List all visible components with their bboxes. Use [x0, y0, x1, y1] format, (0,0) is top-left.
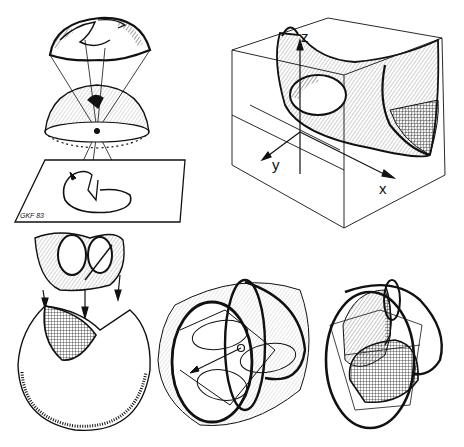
y-axis-label: y	[272, 156, 280, 173]
figure-projection-stack: GKF 83	[15, 18, 185, 222]
y-axis	[265, 132, 300, 158]
figure-surface-in-box: z y x	[232, 18, 445, 228]
folded-surface	[35, 233, 124, 290]
top-dome-surface	[50, 18, 150, 61]
illustration-plate: GKF 83 z	[0, 0, 464, 447]
x-axis-label: x	[379, 180, 387, 197]
z-axis-label: z	[301, 28, 309, 45]
center-point	[94, 128, 99, 133]
x-arrow-icon	[382, 170, 394, 178]
figure-cut-disk	[18, 233, 150, 430]
cut-disk-shape	[18, 306, 150, 430]
figure-shaded-ovoid	[326, 280, 442, 428]
artist-signature: GKF 83	[20, 212, 44, 219]
hemisphere	[45, 85, 149, 148]
figure-cylinder-lobes	[158, 280, 309, 426]
y-arrow-icon	[262, 152, 271, 160]
projection-plane: GKF 83	[15, 160, 185, 222]
